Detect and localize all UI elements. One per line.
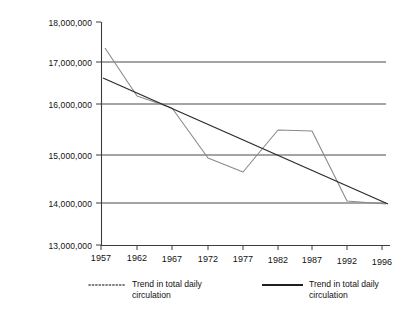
x-axis-tick-label: 1962	[117, 253, 157, 263]
x-axis-tick-label: 1957	[81, 253, 121, 263]
chart-figure: 18,000,000 17,000,000 16,000,000 15,000,…	[0, 0, 417, 314]
x-axis-tick-label: 1977	[223, 254, 263, 264]
x-axis-tick-label: 1992	[327, 256, 367, 266]
x-axis-tick-label: 1987	[292, 255, 332, 265]
legend-label-dotted: Trend in total daily circulation	[132, 279, 232, 300]
legend-label-solid: Trend in total daily circulation	[309, 279, 409, 300]
y-axis-ticks	[96, 22, 101, 245]
x-axis-tick-label: 1967	[152, 254, 192, 264]
data-series-trend	[103, 78, 388, 204]
plot-area	[0, 0, 417, 314]
x-axis-tick-label: 1996	[362, 257, 402, 267]
gridlines	[101, 62, 386, 203]
x-axis-tick-label: 1972	[188, 254, 228, 264]
data-series-dotted	[105, 48, 386, 204]
